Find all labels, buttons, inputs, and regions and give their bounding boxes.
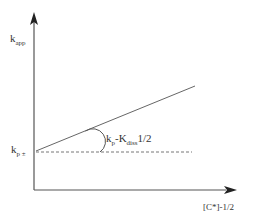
slope-angle-arc <box>86 129 106 152</box>
slope-tail: 1/2 <box>138 132 152 144</box>
slope-label: kp-Kdiss1/2 <box>106 133 152 147</box>
y-axis-label: kapp <box>10 33 26 47</box>
y-axis-label-sub: app <box>16 39 26 47</box>
slope-K-sub: diss <box>127 139 138 147</box>
intercept-label: kp ± <box>11 144 26 158</box>
intercept-label-sub: p ± <box>17 150 26 158</box>
slope-sep: -K <box>115 132 127 144</box>
diagram-canvas <box>0 0 253 223</box>
kapp-vs-concentration-diagram: kapp kp ± kp-Kdiss1/2 [C*]-1/2 <box>0 0 253 223</box>
x-axis-label: [C*]-1/2 <box>203 203 234 212</box>
